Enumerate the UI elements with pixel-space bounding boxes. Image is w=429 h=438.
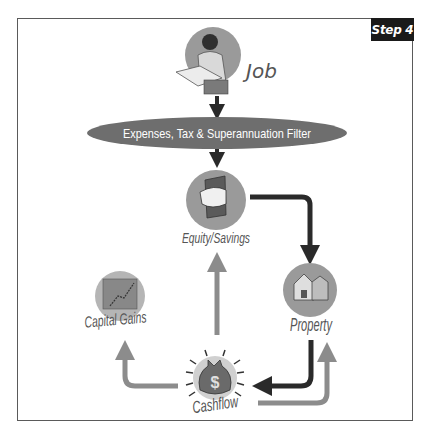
arrow-cashflow-to-capital-gains (125, 350, 178, 386)
arrow-property-to-cashflow (262, 340, 311, 386)
cashflow-diagram: Job Expenses, Tax & Superannuation Filte… (0, 0, 429, 438)
node-equity-savings: Equity/Savings (182, 170, 250, 246)
node-filter: Expenses, Tax & Superannuation Filter (87, 117, 347, 149)
dollar-sign: $ (211, 374, 220, 391)
capital-gains-label: Capital Gains (84, 308, 147, 330)
filter-label: Expenses, Tax & Superannuation Filter (123, 126, 312, 141)
node-job: Job (176, 27, 277, 94)
node-cashflow: $ Cashflow (186, 350, 244, 417)
job-label: Job (242, 59, 277, 83)
property-label: Property (290, 314, 333, 335)
arrow-equity-to-property (250, 197, 310, 255)
rising-chart-icon (103, 279, 137, 309)
arrow-cashflow-to-property (258, 352, 327, 403)
equity-label: Equity/Savings (182, 229, 250, 246)
node-property: Property (283, 263, 337, 335)
node-capital-gains: Capital Gains (84, 271, 147, 331)
cashflow-label: Cashflow (191, 392, 240, 417)
